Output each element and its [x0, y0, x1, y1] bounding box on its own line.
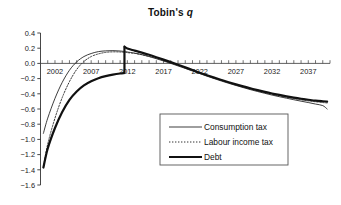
series-line [43, 73, 124, 167]
y-tick-label: 0.2 [25, 44, 35, 53]
y-tick-label: −1.6 [20, 181, 35, 190]
y-tick-label: 0.0 [25, 59, 35, 68]
chart-plot-area: 0.40.20.0−0.2−0.4−0.6−0.8−1.0−1.2−1.4−1.… [0, 0, 341, 205]
y-tick-label: −1.4 [20, 166, 35, 175]
y-tick-label: −1.2 [20, 150, 35, 159]
x-tick-label: 2017 [155, 67, 171, 76]
y-axis: 0.40.20.0−0.2−0.4−0.6−0.8−1.0−1.2−1.4−1.… [20, 29, 40, 190]
x-tick-label: 2037 [300, 67, 316, 76]
x-tick-label: 2002 [47, 67, 63, 76]
chart-figure: Tobin's q 0.40.20.0−0.2−0.4−0.6−0.8−1.0−… [0, 0, 341, 205]
x-tick-label: 2027 [228, 67, 244, 76]
y-tick-label: −0.2 [20, 74, 35, 83]
x-tick-label: 2007 [83, 67, 99, 76]
chart-legend: Consumption taxLabour income taxDebt [160, 114, 288, 165]
y-tick-label: −1.0 [20, 135, 35, 144]
x-tick-label: 2032 [264, 67, 280, 76]
y-tick-label: −0.4 [20, 90, 35, 99]
x-tick-label: 2012 [119, 67, 135, 76]
y-tick-label: −0.6 [20, 105, 35, 114]
y-tick-label: 0.4 [25, 29, 35, 38]
y-tick-label: −0.8 [20, 120, 35, 129]
legend-label: Debt [204, 152, 222, 162]
legend-label: Labour income tax [204, 137, 274, 147]
legend-label: Consumption tax [204, 122, 268, 132]
